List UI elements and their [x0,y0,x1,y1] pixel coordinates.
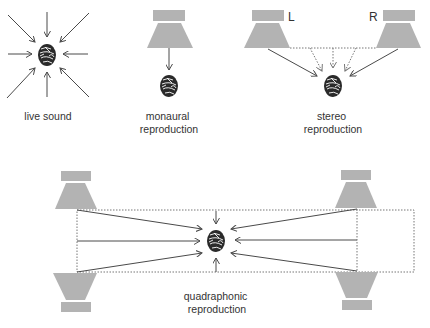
speaker-front-left-icon [55,171,97,209]
speaker-right-icon [376,10,421,48]
speaker-right-label: R [369,10,378,24]
quadraphonic-panel: quadraphonic reproduction [53,170,414,315]
speaker-front-right-icon [335,170,377,208]
listener-head-icon [324,75,342,97]
monaural-label: monaural reproduction [140,110,199,135]
speaker-rear-right-icon [335,272,378,310]
stereo-label: stereo reproduction [304,110,363,135]
live-sound-label: live sound [24,110,71,122]
stereo-panel: L R stereo reproduction [244,10,421,135]
listener-head-icon [38,44,56,66]
monaural-panel: monaural reproduction [140,10,199,135]
listener-head-icon [160,75,178,97]
speaker-left-label: L [288,10,295,24]
sound-reproduction-diagram: live sound monaural reproduction L R [0,0,430,328]
listener-head-icon [207,230,225,252]
speaker-icon [147,10,193,48]
speaker-rear-left-icon [53,273,97,312]
quadraphonic-label: quadraphonic reproduction [184,290,251,315]
speaker-left-icon [244,10,290,48]
live-sound-panel: live sound [7,12,89,122]
